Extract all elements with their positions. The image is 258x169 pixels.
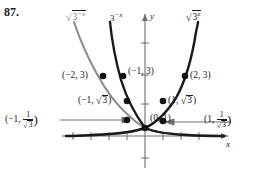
- radical-sign-left: √3−x: [66, 10, 86, 23]
- neg1-frac-prefix: (−1,: [5, 114, 23, 124]
- one-frac-prefix: (1,: [204, 114, 217, 124]
- one-frac-radical: √3: [217, 120, 227, 130]
- point-1-sqrt3: [160, 98, 167, 105]
- curve-label-3-neg-x: 3−x: [110, 11, 122, 23]
- one-fraction: 1√3: [217, 111, 227, 130]
- neg1-sqrt3-prefix: (−1,: [78, 95, 96, 105]
- neg1-frac-radicand: 3: [28, 120, 32, 129]
- radical-sign-right: √3x: [186, 10, 201, 23]
- point-neg1-3: [120, 73, 127, 80]
- point-label-neg1-inv-sqrt3: (−1, 1√3): [5, 110, 38, 129]
- neg1-frac-radical: √3: [23, 120, 33, 130]
- point-label-2-3: (2, 3): [190, 70, 211, 80]
- curve-label-sqrt-3-x: √3x: [186, 10, 201, 23]
- curve-label-left-exponent: −x: [77, 10, 85, 18]
- one-frac-denominator: √3: [217, 120, 227, 130]
- one-sqrt3-prefix: (1,: [168, 95, 181, 105]
- one-sqrt3-suffix: ): [193, 95, 196, 105]
- neg1-frac-denominator: √3: [23, 120, 33, 130]
- neg1-fraction: 1√3: [23, 111, 33, 130]
- one-frac-radicand: 3: [222, 120, 226, 129]
- curve-label-sqrt-3-neg-x: √3−x: [66, 10, 86, 23]
- one-frac-suffix: ): [227, 112, 231, 127]
- neg1-frac-numerator: 1: [23, 111, 33, 120]
- y-axis-label: y: [150, 11, 154, 21]
- curve-label-middle-exponent: −x: [115, 11, 123, 19]
- curve-label-right-exponent: x: [197, 10, 200, 18]
- neg1-frac-suffix: ): [33, 112, 37, 127]
- y-axis-arrow: [142, 14, 148, 21]
- point-0-1: [142, 125, 149, 132]
- point-label-1-inv-sqrt3: (1, 1√3): [204, 110, 231, 129]
- x-axis-label: x: [226, 139, 230, 149]
- one-sqrt3-radical: √3: [181, 95, 193, 106]
- one-frac-numerator: 1: [217, 111, 227, 120]
- graph-svg: [0, 0, 258, 169]
- neg1-sqrt3-suffix: ): [108, 95, 111, 105]
- neg1-sqrt3-radicand: 3: [103, 95, 108, 105]
- axes-group: [62, 14, 228, 168]
- point-2-3: [182, 73, 189, 80]
- one-sqrt3-radicand: 3: [187, 95, 192, 105]
- point-label-neg1-sqrt3: (−1, √3): [78, 95, 111, 106]
- neg1-sqrt3-radical: √3: [96, 95, 108, 106]
- point-neg1-sqrt3: [124, 98, 131, 105]
- point-label-neg1-3: (−1, 3): [128, 66, 154, 76]
- point-label-1-sqrt3: (1, √3): [168, 95, 196, 106]
- point-label-neg2-3: (−2, 3): [62, 70, 88, 80]
- point-neg2-3: [100, 73, 107, 80]
- point-neg1-inv: [124, 117, 131, 124]
- point-label-0-1: (0, 1): [150, 113, 171, 123]
